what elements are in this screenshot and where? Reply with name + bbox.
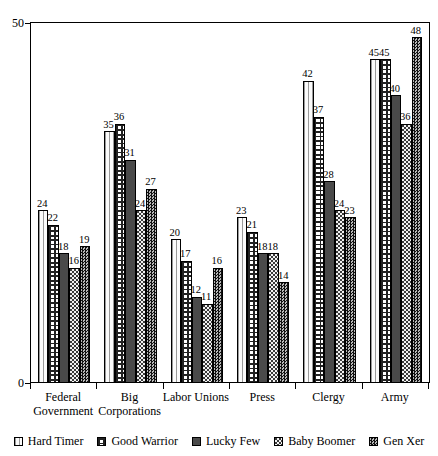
bar-slot: 40 <box>391 23 402 383</box>
x-axis-category-line: Army <box>354 390 436 404</box>
bar-value-label: 17 <box>180 249 191 260</box>
bar-slot: 27 <box>146 23 157 383</box>
legend-item[interactable]: Hard Timer <box>14 435 84 447</box>
bar-slot: 16 <box>69 23 80 383</box>
legend-item[interactable]: Good Warrior <box>97 435 177 447</box>
bar-value-label: 11 <box>201 292 211 303</box>
bar-value-label: 36 <box>400 112 411 123</box>
bar-slot: 19 <box>80 23 91 383</box>
bar[interactable] <box>104 131 115 383</box>
bar-value-label: 27 <box>145 177 156 188</box>
bar-chart: 050 242218161935363124272017121116232118… <box>0 0 438 456</box>
bar-value-label: 45 <box>369 48 380 59</box>
x-axis-ticks <box>30 383 430 390</box>
bar-value-label: 18 <box>267 242 278 253</box>
bar-value-label: 48 <box>411 26 422 37</box>
bar[interactable] <box>258 253 269 383</box>
legend-label: Hard Timer <box>28 435 84 447</box>
bar[interactable] <box>146 189 157 383</box>
bar-value-label: 23 <box>236 206 247 217</box>
legend-item[interactable]: Baby Boomer <box>274 435 355 447</box>
bar-value-label: 40 <box>390 84 401 95</box>
legend-label: Gen Xer <box>383 435 424 447</box>
bar-slot: 17 <box>181 23 192 383</box>
bar[interactable] <box>380 59 391 383</box>
bar-value-label: 16 <box>212 256 223 267</box>
bar-slot: 22 <box>48 23 59 383</box>
bar[interactable] <box>345 217 356 383</box>
bar-group: 4545403648 <box>363 23 429 383</box>
legend-swatch-icon <box>14 437 23 446</box>
bar-value-label: 18 <box>58 242 69 253</box>
bar-slot: 20 <box>171 23 182 383</box>
bar-group: 2017121116 <box>164 23 230 383</box>
bar-slot: 21 <box>247 23 258 383</box>
bar-value-label: 28 <box>323 170 334 181</box>
bar[interactable] <box>303 81 314 383</box>
bar[interactable] <box>115 124 126 383</box>
legend-swatch-icon <box>369 437 378 446</box>
x-tick-mark <box>428 383 429 389</box>
legend-label: Baby Boomer <box>288 435 355 447</box>
bar-value-label: 42 <box>302 69 313 80</box>
bar-group: 2321181814 <box>230 23 296 383</box>
bar-slot: 18 <box>268 23 279 383</box>
bar-value-label: 16 <box>68 256 79 267</box>
bar-value-label: 18 <box>257 242 268 253</box>
legend-item[interactable]: Gen Xer <box>369 435 424 447</box>
bar-value-label: 20 <box>170 228 181 239</box>
chart-legend: Hard TimerGood WarriorLucky FewBaby Boom… <box>0 430 438 452</box>
bar[interactable] <box>38 210 49 383</box>
bar-slot: 23 <box>345 23 356 383</box>
bar[interactable] <box>370 59 381 383</box>
bar-group: 3536312427 <box>97 23 163 383</box>
bar[interactable] <box>202 304 213 383</box>
bar-value-label: 23 <box>344 206 355 217</box>
bar-slot: 42 <box>303 23 314 383</box>
bar-slot: 48 <box>412 23 423 383</box>
bar[interactable] <box>237 217 248 383</box>
bar-value-label: 24 <box>37 199 48 210</box>
bar-slot: 45 <box>380 23 391 383</box>
bar[interactable] <box>247 232 258 383</box>
bar[interactable] <box>59 253 70 383</box>
bar[interactable] <box>192 297 203 383</box>
bar-slot: 24 <box>136 23 147 383</box>
bar-value-label: 24 <box>334 199 345 210</box>
bar-value-label: 35 <box>103 120 114 131</box>
bar-slot: 37 <box>314 23 325 383</box>
bar[interactable] <box>335 210 346 383</box>
bar[interactable] <box>136 210 147 383</box>
bar[interactable] <box>181 261 192 383</box>
bar-value-label: 45 <box>379 48 390 59</box>
bar[interactable] <box>125 160 136 383</box>
bar-value-label: 14 <box>278 271 289 282</box>
bar[interactable] <box>69 268 80 383</box>
bar[interactable] <box>213 268 224 383</box>
bar-slot: 18 <box>258 23 269 383</box>
bar[interactable] <box>314 117 325 383</box>
x-axis-category-label: Army <box>354 390 436 404</box>
legend-item[interactable]: Lucky Few <box>192 435 260 447</box>
bar[interactable] <box>391 95 402 383</box>
bar-slot: 36 <box>115 23 126 383</box>
x-tick-mark <box>229 383 230 389</box>
bar[interactable] <box>171 239 182 383</box>
legend-label: Lucky Few <box>206 435 260 447</box>
bar-slot: 14 <box>279 23 290 383</box>
bar[interactable] <box>279 282 290 383</box>
bar-slot: 35 <box>104 23 115 383</box>
bar-group: 2422181619 <box>31 23 97 383</box>
legend-swatch-icon <box>192 437 201 446</box>
bar[interactable] <box>324 181 335 383</box>
x-tick-mark <box>362 383 363 389</box>
y-axis: 050 <box>0 0 30 400</box>
x-axis-category-line: Corporations <box>88 404 170 418</box>
bar-group: 4237282423 <box>296 23 362 383</box>
bar[interactable] <box>401 124 412 383</box>
bar[interactable] <box>80 246 91 383</box>
bar[interactable] <box>412 37 423 383</box>
bar-value-label: 37 <box>313 105 324 116</box>
legend-label: Good Warrior <box>111 435 177 447</box>
bar-slot: 24 <box>335 23 346 383</box>
